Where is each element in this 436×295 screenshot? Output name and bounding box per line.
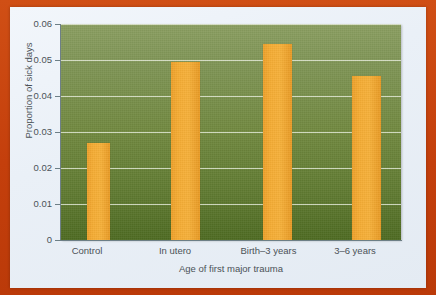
bar-chart: Proportion of sick days [10, 7, 426, 288]
gridline [61, 132, 401, 133]
y-tick-mark [55, 96, 60, 97]
chart-card: Proportion of sick days [10, 7, 426, 288]
x-tick-label-3-6-years: 3–6 years [315, 246, 395, 256]
figure-frame: Proportion of sick days [0, 0, 436, 295]
y-tick-mark [55, 240, 60, 241]
gridline [61, 60, 401, 61]
bar-3-6-years[interactable] [352, 76, 381, 240]
x-tick-label-in-utero: In utero [135, 246, 215, 256]
x-tick-label-birth-3-years: Birth–3 years [221, 246, 316, 256]
gridline [61, 96, 401, 97]
y-tick-label: 0.05 [12, 55, 52, 65]
y-axis-line [60, 24, 61, 241]
gridline [61, 24, 401, 25]
y-tick-label: 0.06 [12, 19, 52, 29]
bar-control[interactable] [87, 143, 110, 240]
y-tick-mark [55, 204, 60, 205]
x-axis-line [60, 240, 402, 241]
x-tick-label-control: Control [47, 246, 127, 256]
y-tick-label: 0.03 [12, 127, 52, 137]
bar-birth-3-years[interactable] [263, 44, 292, 240]
y-tick-mark [55, 24, 60, 25]
y-tick-mark [55, 60, 60, 61]
gridline [61, 168, 401, 169]
y-tick-label: 0.01 [12, 199, 52, 209]
y-tick-label: 0.02 [12, 163, 52, 173]
x-axis-label: Age of first major trauma [61, 263, 401, 274]
y-tick-label: 0.04 [12, 91, 52, 101]
gridline [61, 204, 401, 205]
plot-area [61, 24, 401, 240]
bar-in-utero[interactable] [171, 62, 200, 240]
y-tick-label: 0 [12, 235, 52, 245]
y-tick-mark [55, 168, 60, 169]
y-tick-mark [55, 132, 60, 133]
